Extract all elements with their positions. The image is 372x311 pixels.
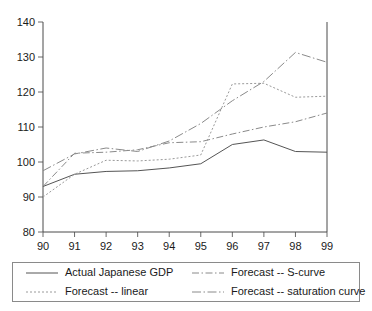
series-line-actual-japanese-gdp: [43, 140, 327, 187]
legend-item-forecast-linear: Forecast -- linear: [13, 282, 185, 301]
line-chart: 8090100110120130140 90919293949596979899: [0, 0, 372, 256]
chart-legend: Actual Japanese GDP Forecast -- S-curve …: [12, 262, 360, 302]
y-tick-label: 130: [17, 51, 35, 63]
chart-series-group: [43, 52, 327, 197]
series-line-forecast-linear: [43, 83, 327, 197]
legend-item-forecast-saturation-curve: Forecast -- saturation curve: [185, 282, 361, 301]
x-tick-label: 90: [37, 240, 49, 252]
legend-item-actual-japanese-gdp: Actual Japanese GDP: [13, 263, 185, 282]
legend-swatch-dash-dot-line-icon: [191, 268, 225, 278]
x-axis-tick-marks: [43, 232, 327, 237]
y-tick-label: 110: [17, 121, 35, 133]
y-tick-label: 140: [17, 16, 35, 28]
x-tick-label: 97: [258, 240, 270, 252]
legend-swatch-solid-line-icon: [25, 268, 59, 278]
y-tick-label: 100: [17, 156, 35, 168]
x-axis-tick-labels: 90919293949596979899: [37, 240, 333, 252]
legend-swatch-long-dash-dot-line-icon: [191, 287, 225, 297]
legend-label: Forecast -- saturation curve: [231, 286, 366, 297]
legend-item-forecast-s-curve: Forecast -- S-curve: [185, 263, 361, 282]
x-tick-label: 92: [100, 240, 112, 252]
x-tick-label: 95: [195, 240, 207, 252]
x-tick-label: 98: [289, 240, 301, 252]
x-tick-label: 96: [226, 240, 238, 252]
series-line-forecast-s-curve: [43, 113, 327, 187]
legend-label: Forecast -- S-curve: [231, 267, 325, 278]
y-tick-label: 120: [17, 86, 35, 98]
x-tick-label: 94: [163, 240, 175, 252]
x-tick-label: 93: [132, 240, 144, 252]
legend-label: Actual Japanese GDP: [65, 267, 173, 278]
chart-canvas: 8090100110120130140 90919293949596979899: [0, 0, 372, 256]
y-tick-label: 80: [23, 226, 35, 238]
y-tick-label: 90: [23, 191, 35, 203]
legend-label: Forecast -- linear: [65, 286, 148, 297]
x-tick-label: 99: [321, 240, 333, 252]
plot-axis-frame: [43, 22, 327, 232]
legend-swatch-dotted-line-icon: [25, 287, 59, 297]
y-axis-tick-marks: [38, 22, 43, 232]
chart-page: 8090100110120130140 90919293949596979899…: [0, 0, 372, 311]
x-tick-label: 91: [68, 240, 80, 252]
y-axis-tick-labels: 8090100110120130140: [17, 16, 35, 238]
